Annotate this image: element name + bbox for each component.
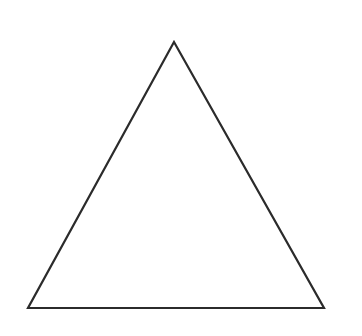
triangle-shape (28, 42, 324, 308)
shape-layer (0, 0, 362, 336)
diagram-canvas (0, 0, 362, 336)
